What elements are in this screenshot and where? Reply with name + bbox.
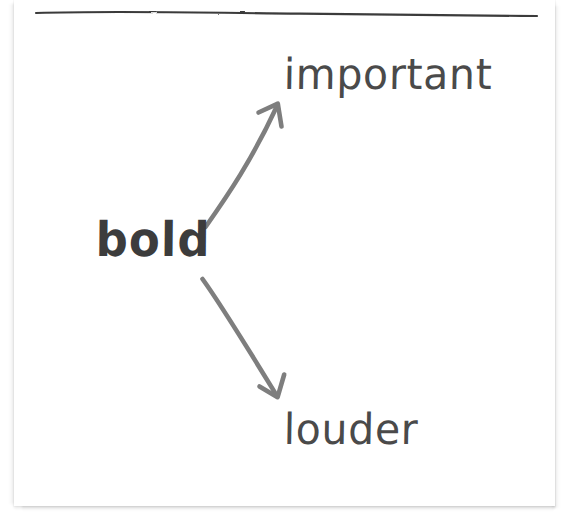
arrow-bold-to-important bbox=[206, 104, 282, 227]
node-label-louder: louder bbox=[283, 409, 418, 452]
divider-rule bbox=[36, 12, 537, 16]
node-label-important: important bbox=[283, 54, 493, 97]
arrow-bold-to-louder bbox=[203, 279, 285, 397]
node-label-bold: bold bbox=[96, 216, 211, 264]
sketch-canvas: bold important louder bbox=[0, 0, 577, 519]
